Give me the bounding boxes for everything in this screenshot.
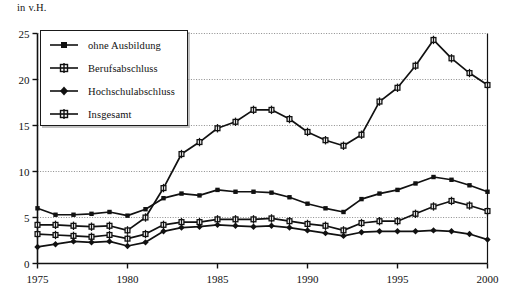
legend-marker-square-bar-icon <box>49 107 79 121</box>
svg-text:1990: 1990 <box>297 273 320 285</box>
series-berufsabschluss <box>35 197 490 243</box>
svg-text:25: 25 <box>19 28 31 40</box>
svg-text:2000: 2000 <box>477 273 500 285</box>
chart-legend: ohne Ausbildung Berufsabschluss Hochschu… <box>40 30 188 126</box>
legend-label: Hochschulabschluss <box>88 86 175 97</box>
svg-text:5: 5 <box>24 212 30 224</box>
legend-marker-square-icon <box>49 38 79 52</box>
svg-text:15: 15 <box>19 120 31 132</box>
legend-item-hochschulabschluss: Hochschulabschluss <box>49 81 175 101</box>
legend-item-insgesamt: Insgesamt <box>49 104 131 124</box>
svg-text:0: 0 <box>24 258 30 270</box>
x-axis-ticks: 197519801985199019952000 <box>27 264 500 285</box>
legend-marker-square-bar-icon <box>49 61 79 75</box>
svg-text:10: 10 <box>19 166 31 178</box>
legend-item-ohne-ausbildung: ohne Ausbildung <box>49 35 161 55</box>
legend-item-berufsabschluss: Berufsabschluss <box>49 58 158 78</box>
svg-text:1975: 1975 <box>27 273 50 285</box>
svg-text:20: 20 <box>19 74 31 86</box>
chart-container: in v.H. 0510152025 197519801985199019952… <box>0 0 508 290</box>
legend-marker-diamond-icon <box>49 84 79 98</box>
svg-text:1985: 1985 <box>207 273 230 285</box>
legend-label: Insgesamt <box>88 109 131 120</box>
svg-text:1980: 1980 <box>117 273 140 285</box>
svg-text:1995: 1995 <box>387 273 410 285</box>
legend-label: Berufsabschluss <box>88 63 158 74</box>
legend-label: ohne Ausbildung <box>88 40 161 51</box>
